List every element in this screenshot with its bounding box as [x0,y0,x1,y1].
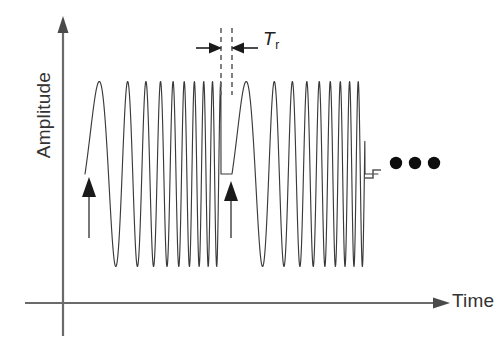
chirp-waveform-path [85,82,378,267]
x-axis [25,298,450,309]
ellipsis-dot-3 [428,157,440,169]
waveform-plot [0,0,503,342]
reset-interval-label: Tr [263,28,279,50]
sweep-start-marker-2 [224,181,238,238]
x-axis-arrowhead-icon [433,298,450,309]
reset-interval-label-subscript: r [275,38,279,52]
reset-interval-arrows [196,43,258,54]
y-axis [58,16,69,336]
ellipsis-dot-1 [390,157,402,169]
ellipsis-dot-2 [409,157,421,169]
sweep-start-marker-1 [82,177,96,238]
continuation-ellipsis-icon [390,157,440,169]
chirp-waveform-figure: Amplitude Time Tr [0,0,503,342]
sweep-marker-1-arrowhead-icon [82,177,96,197]
reset-interval-label-main: T [263,28,275,49]
tr-right-arrowhead-icon [231,43,244,54]
tr-left-arrowhead-icon [209,43,222,54]
y-axis-label: Amplitude [33,55,55,175]
y-axis-arrowhead-icon [58,16,69,33]
sweep-marker-2-arrowhead-icon [224,181,238,201]
x-axis-label: Time [452,290,494,312]
